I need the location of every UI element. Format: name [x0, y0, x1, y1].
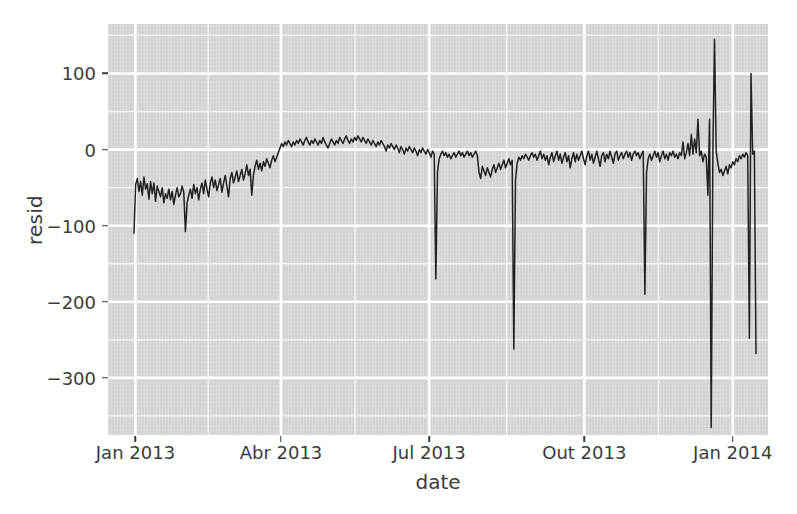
y-axis-tick-label: −300 — [47, 367, 96, 388]
y-axis-tick-label: −100 — [47, 215, 96, 236]
data-line-resid — [134, 39, 756, 427]
x-axis-tick-mark — [135, 436, 137, 442]
x-axis-tick-label: Abr 2013 — [240, 442, 323, 463]
data-series-group — [134, 39, 756, 427]
x-axis-tick-mark — [584, 436, 586, 442]
y-axis-title-text: resid — [23, 195, 47, 245]
plot-panel — [108, 24, 768, 435]
plot-area-svg — [108, 24, 768, 435]
major-gridlines — [108, 24, 768, 435]
y-axis-tick-label: 100 — [62, 63, 96, 84]
x-axis-tick-label: Jan 2014 — [693, 442, 772, 463]
x-axis-tick-label: Out 2013 — [542, 442, 626, 463]
y-axis-tick-label: −200 — [47, 291, 96, 312]
x-axis-title: date — [108, 470, 768, 494]
x-axis-tick-mark — [732, 436, 734, 442]
x-axis-tick-mark — [428, 436, 430, 442]
x-axis-tick-label: Jul 2013 — [393, 442, 466, 463]
y-axis-tick-label: 0 — [85, 139, 96, 160]
x-axis-tick-label: Jan 2013 — [96, 442, 175, 463]
x-axis-tick-mark — [280, 436, 282, 442]
residual-time-series-chart: resid 1000−100−200−300 Jan 2013Abr 2013J… — [0, 0, 797, 514]
minor-gridlines — [108, 24, 768, 435]
